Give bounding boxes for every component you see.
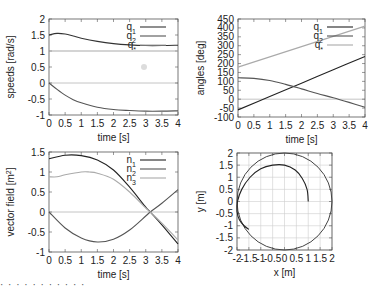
y-tick-label: 0 — [39, 207, 45, 218]
plot-frame — [49, 19, 178, 115]
legend-subscript: 1 — [319, 28, 323, 35]
x-tick-label: 0.5 — [58, 118, 72, 129]
x-tick-label: 4 — [362, 120, 368, 131]
x-tick-label: 2.5 — [123, 118, 137, 129]
y-axis-label: y [m] — [195, 190, 206, 212]
x-axis-label: x [m] — [274, 267, 296, 278]
x-tick-label: 3 — [143, 118, 149, 129]
x-tick-label: 3.5 — [155, 255, 169, 266]
x-tick-label: 1 — [305, 253, 311, 264]
x-tick-label: 1.5 — [90, 118, 104, 129]
x-tick-label: 0 — [235, 120, 241, 131]
y-tick-label: 1 — [227, 172, 233, 183]
legend-subscript: 1 — [132, 161, 136, 168]
y-tick-label: 1.5 — [31, 30, 45, 41]
series-q2 — [49, 83, 178, 111]
x-tick-label: 4 — [175, 255, 181, 266]
x-axis-label: time [s] — [97, 132, 129, 143]
y-tick-label: -1 — [36, 247, 45, 258]
x-tick-label: 1.5 — [313, 253, 327, 264]
x-tick-label: 0 — [46, 255, 52, 266]
x-tick-label: 2 — [111, 118, 117, 129]
x-axis-label: time [s] — [285, 134, 317, 145]
y-tick-label: 1 — [39, 46, 45, 57]
label-end: ] — [5, 167, 16, 170]
x-tick-label: 1.5 — [90, 255, 104, 266]
legend-subscript: * — [320, 46, 323, 53]
y-tick-label: 2 — [227, 148, 233, 159]
chart-bottom-left: 00.511.522.533.541.510.50-0.5-1time [s]v… — [5, 147, 182, 281]
x-tick-label: 0 — [46, 118, 52, 129]
y-tick-label: -100 — [214, 112, 234, 123]
x-tick-label: 3 — [143, 255, 149, 266]
x-tick-label: 0.5 — [289, 253, 303, 264]
chart-top-right: 00.511.522.533.5445040035030025020015010… — [195, 14, 368, 146]
x-tick-label: 2 — [111, 255, 117, 266]
series-qstar — [238, 26, 365, 67]
y-tick-label: 1.5 — [31, 147, 45, 158]
x-tick-label: 1 — [78, 118, 84, 129]
y-tick-label: 0.5 — [31, 187, 45, 198]
x-tick-label: 2.5 — [123, 255, 137, 266]
chart-bottom-right: -2-1.5-1-0.500.511.5221.510.50-0.5-1-1.5… — [195, 148, 335, 279]
y-tick-label: 1.5 — [219, 160, 233, 171]
x-tick-label: 0.5 — [247, 120, 261, 131]
x-tick-label: 1 — [78, 255, 84, 266]
cut-off-caption: · · · · · · · · · · · — [0, 279, 376, 288]
legend-subscript: * — [133, 46, 136, 53]
y-axis-label: vector field [m2] — [5, 167, 17, 236]
series-q2 — [238, 78, 365, 107]
x-tick-label: 2 — [329, 253, 335, 264]
y-tick-label: -0.5 — [28, 227, 46, 238]
x-tick-label: 4 — [175, 118, 181, 129]
x-tick-label: -1.5 — [240, 253, 258, 264]
x-tick-label: 3.5 — [342, 120, 356, 131]
y-tick-label: -0.5 — [28, 94, 46, 105]
y-tick-label: -0.5 — [216, 208, 234, 219]
x-tick-label: 2 — [299, 120, 305, 131]
y-tick-label: 2 — [39, 14, 45, 25]
x-tick-label: -0.5 — [264, 253, 282, 264]
y-tick-label: -1 — [224, 220, 233, 231]
y-tick-label: 0.5 — [31, 62, 45, 73]
y-tick-label: 0 — [227, 196, 233, 207]
y-tick-label: 1 — [39, 167, 45, 178]
y-tick-label: -1.5 — [216, 232, 234, 243]
y-tick-label: -2 — [224, 245, 233, 256]
x-tick-label: 3.5 — [155, 118, 169, 129]
x-tick-label: 0.5 — [58, 255, 72, 266]
x-tick-label: 3 — [330, 120, 336, 131]
y-axis-label: angles [deg] — [195, 41, 206, 96]
legend-subscript: 3 — [132, 179, 136, 186]
y-tick-label: 0.5 — [219, 184, 233, 195]
figure: 00.511.522.533.5421.510.50-0.5-1time [s]… — [0, 0, 376, 288]
y-tick-label: -1 — [36, 110, 45, 121]
artifact-dot — [141, 64, 147, 70]
x-tick-label: 0 — [282, 253, 288, 264]
x-tick-label: 1 — [267, 120, 273, 131]
legend-subscript: 1 — [132, 28, 136, 35]
legend-subscript: 2 — [132, 170, 136, 177]
y-axis-label: speeds [rad/s] — [5, 35, 16, 98]
plot-frame — [49, 152, 178, 252]
series-n2 — [49, 190, 178, 242]
x-tick-label: 1.5 — [279, 120, 293, 131]
y-tick-label: 0 — [39, 78, 45, 89]
x-tick-label: 2.5 — [310, 120, 324, 131]
chart-top-left: 00.511.522.533.5421.510.50-0.5-1time [s]… — [5, 14, 181, 144]
series-q1 — [49, 33, 178, 45]
